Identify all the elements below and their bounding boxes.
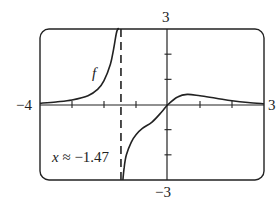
curve-f-left-branch [40,29,119,104]
asymptote-label: x ≈ −1.47 [51,149,110,165]
y-min-label: −3 [155,184,171,200]
y-max-label: 3 [162,9,170,25]
function-graph: −4 3 3 −3 f x ≈ −1.47 [0,0,277,202]
x-max-label: 3 [268,97,276,113]
curve-label-f: f [92,65,98,81]
curve-f-right-branch [123,94,264,180]
asymptote-value: ≈ −1.47 [59,149,110,165]
x-min-label: −4 [16,97,32,113]
